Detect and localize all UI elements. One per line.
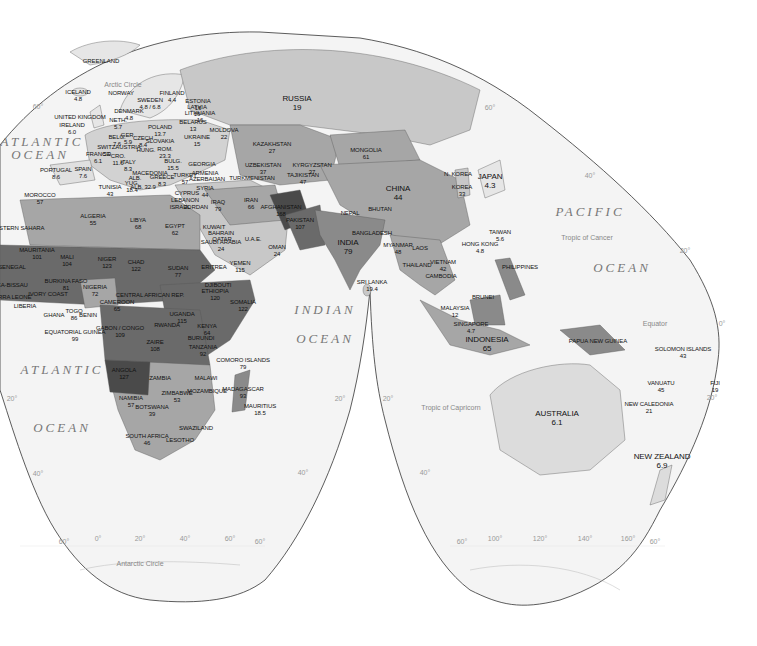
ocean-label: OCEAN bbox=[11, 147, 69, 163]
country-label: SENEGAL bbox=[0, 264, 26, 271]
country-label: MOZAMBIQUE bbox=[187, 388, 227, 395]
country-label: GUINEA-BISSAU bbox=[0, 282, 28, 289]
country-label: RUSSIA 19 bbox=[282, 95, 311, 112]
country-label: LEBANON bbox=[171, 197, 199, 204]
country-label: TANZANIA 92 bbox=[189, 344, 217, 357]
arctic-circle-label: Arctic Circle bbox=[104, 81, 141, 88]
country-label: ZAMBIA bbox=[149, 375, 171, 382]
country-label: SOUTH AFRICA 46 bbox=[125, 433, 168, 446]
graticule-label: 0° bbox=[95, 535, 102, 542]
ocean-label: INDIAN bbox=[294, 302, 355, 318]
country-label: ZIMBABWE 53 bbox=[161, 390, 192, 403]
country-label: AFGHANISTAN 168 bbox=[260, 204, 301, 217]
graticule-label: 60° bbox=[255, 538, 266, 545]
country-label: U.A.E. bbox=[245, 236, 262, 243]
ocean-label: OCEAN bbox=[296, 331, 354, 347]
country-label: MADAGASCAR 93 bbox=[222, 386, 264, 399]
country-label: AZERBAIJAN bbox=[189, 176, 225, 183]
ocean-label: OCEAN bbox=[33, 420, 91, 436]
tropic-of-cancer-label: Tropic of Cancer bbox=[561, 234, 612, 241]
graticule-label: 40° bbox=[585, 172, 596, 179]
antarctic-circle-label: Antarctic Circle bbox=[116, 560, 163, 567]
country-label: JORDAN bbox=[184, 204, 208, 211]
country-label: NIGER 123 bbox=[98, 256, 117, 269]
tropic-of-capricorn-label: Tropic of Capricorn bbox=[421, 404, 480, 411]
country-label: IVORY COAST bbox=[28, 291, 68, 298]
country-label: MALI 104 bbox=[60, 254, 74, 267]
country-label: KENYA 64 bbox=[197, 323, 216, 336]
country-label: ETHIOPIA 120 bbox=[201, 288, 228, 301]
country-label: UNITED KINGDOM bbox=[54, 114, 105, 121]
graticule-label: 20° bbox=[707, 394, 718, 401]
country-label: CENTRAL AFRICAN REP. bbox=[116, 292, 184, 299]
country-label: VANUATU 45 bbox=[647, 380, 674, 393]
country-label: SRI LANKA 19.4 bbox=[357, 279, 387, 292]
country-label: GHANA bbox=[44, 312, 65, 319]
country-label: HONG KONG 4.8 bbox=[462, 241, 498, 254]
country-label: AUSTRALIA 6.1 bbox=[535, 410, 579, 427]
country-label: YEMEN 115 bbox=[230, 260, 251, 273]
graticule-label: 60° bbox=[457, 538, 468, 545]
graticule-label: 40° bbox=[180, 535, 191, 542]
country-label: SWAZILAND bbox=[179, 425, 213, 432]
country-label: UZBEKISTAN 37 bbox=[245, 162, 281, 175]
country-label: N. KOREA bbox=[444, 171, 472, 178]
country-label: MONGOLIA 61 bbox=[350, 147, 382, 160]
country-label: GREENLAND bbox=[83, 58, 119, 65]
graticule-label: 40° bbox=[420, 469, 431, 476]
country-label: INDIA 79 bbox=[338, 239, 359, 256]
country-label: FINLAND 4.4 bbox=[160, 90, 185, 103]
country-label: IRELAND 6.0 bbox=[59, 122, 84, 135]
country-label: BENIN bbox=[79, 312, 97, 319]
country-label: ALB. 32.9 bbox=[130, 184, 155, 191]
country-label: PORTUGAL 8.6 bbox=[40, 167, 72, 180]
graticule-label: 0° bbox=[719, 320, 726, 327]
country-label: ERITREA bbox=[201, 264, 226, 271]
country-label: HUNG. bbox=[137, 147, 156, 154]
country-label: PAKISTAN 107 bbox=[286, 217, 314, 230]
country-label: BURUNDI bbox=[188, 335, 215, 342]
graticule-label: 60° bbox=[650, 538, 661, 545]
graticule-label: 20° bbox=[335, 395, 346, 402]
country-label: IRAN 66 bbox=[244, 197, 258, 210]
country-label: GEORGIA bbox=[188, 161, 215, 168]
graticule-label: 40° bbox=[33, 470, 44, 477]
country-label: MAURITANIA 101 bbox=[19, 247, 55, 260]
country-label: MOROCCO 57 bbox=[24, 192, 55, 205]
country-label: ZAIRE 108 bbox=[146, 339, 163, 352]
country-label: BHUTAN bbox=[368, 206, 392, 213]
graticule-label: 60° bbox=[225, 535, 236, 542]
country-label: MOLDOVA 22 bbox=[210, 127, 239, 140]
country-label: NEPAL bbox=[341, 210, 360, 217]
country-label: RWANDA bbox=[154, 322, 180, 329]
graticule-label: 60° bbox=[59, 538, 70, 545]
graticule-label: 60° bbox=[33, 103, 44, 110]
country-label: BURKINA FASO 81 bbox=[45, 278, 88, 291]
country-label: SLOVAKIA bbox=[146, 138, 174, 145]
graticule-label: 100° bbox=[488, 535, 502, 542]
country-label: SIERRA LEONE bbox=[0, 294, 31, 301]
country-label: SUDAN 77 bbox=[168, 265, 189, 278]
country-label: LIBYA 68 bbox=[130, 217, 146, 230]
country-label: BANGLADESH bbox=[352, 230, 392, 237]
country-label: KAZAKHSTAN 27 bbox=[253, 141, 292, 154]
country-label: IRAQ 79 bbox=[211, 199, 225, 212]
ocean-label: OCEAN bbox=[593, 260, 651, 276]
graticule-label: 40° bbox=[298, 469, 309, 476]
country-label: TUNISIA 43 bbox=[99, 184, 122, 197]
country-label: PAPUA NEW GUINEA bbox=[569, 338, 627, 345]
equator-label: Equator bbox=[643, 320, 668, 327]
country-label: BOTSWANA 39 bbox=[135, 404, 168, 417]
graticule-label: 60° bbox=[485, 104, 496, 111]
country-label: SYRIA 44 bbox=[196, 185, 214, 198]
country-label: NETH. 5.7 bbox=[109, 117, 127, 130]
country-label: QATAR bbox=[212, 236, 231, 243]
country-label: ALGERIA 55 bbox=[80, 213, 105, 226]
country-label: EGYPT 62 bbox=[165, 223, 185, 236]
country-label: SOMALIA 122 bbox=[230, 299, 256, 312]
country-label: OMAN 24 bbox=[268, 244, 286, 257]
country-label: JAPAN 4.3 bbox=[478, 173, 503, 190]
country-label: CAMEROON 65 bbox=[100, 299, 135, 312]
country-label: CHINA 44 bbox=[386, 185, 410, 202]
country-label: WESTERN SAHARA bbox=[0, 225, 44, 232]
